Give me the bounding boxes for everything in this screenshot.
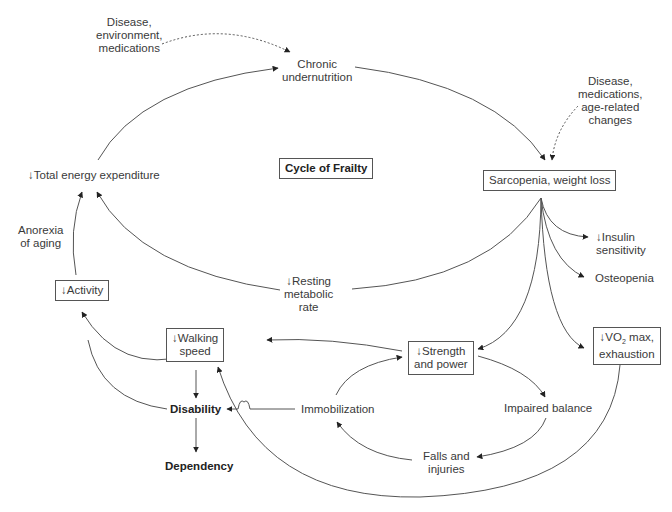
immobilization-node: Immobilization <box>301 403 375 416</box>
influences-top-label: Disease, environment, medications <box>96 16 162 55</box>
disability-node: Disability <box>170 403 221 416</box>
dependency-node: Dependency <box>165 460 233 473</box>
text-line: metabolic <box>284 288 333 301</box>
text-line: medications, <box>578 88 643 101</box>
sarcopenia-node: Sarcopenia, weight loss <box>483 170 616 191</box>
anorexia-label: Anorexia of aging <box>18 224 63 250</box>
vo2-prefix: ↓VO <box>600 331 622 343</box>
text-line: rate <box>284 301 333 314</box>
text-line: speed <box>172 345 218 358</box>
insulin-node: ↓Insulin sensitivity <box>596 231 646 257</box>
text-line: sensitivity <box>596 244 646 257</box>
activity-node: ↓Activity <box>55 280 109 301</box>
text-line: medications <box>96 42 162 55</box>
text-line: changes <box>578 114 643 127</box>
text-line: ↓Resting <box>284 275 333 288</box>
text-line: environment, <box>96 29 162 42</box>
osteopenia-node: Osteopenia <box>595 272 654 285</box>
diagram-title: Cycle of Frailty <box>279 158 373 179</box>
total-energy-node: ↓Total energy expenditure <box>28 169 160 182</box>
vo2-node: ↓VO2 max, exhaustion <box>593 327 661 365</box>
text-line: age-related <box>578 101 643 114</box>
text-line: Falls and <box>423 450 470 463</box>
text-line: Anorexia <box>18 224 63 237</box>
falls-node: Falls and injuries <box>423 450 470 476</box>
text-line: ↓VO2 max, <box>599 331 655 348</box>
text-line: ↓Insulin <box>596 231 646 244</box>
text-line: injuries <box>423 463 470 476</box>
text-line: ↓Walking <box>172 332 218 345</box>
resting-metabolic-node: ↓Resting metabolic rate <box>284 275 333 314</box>
text-line: Chronic <box>282 58 352 71</box>
text-line: exhaustion <box>599 348 655 361</box>
influences-right-label: Disease, medications, age-related change… <box>578 75 643 127</box>
text-line: undernutrition <box>282 71 352 84</box>
walking-speed-node: ↓Walking speed <box>166 328 224 362</box>
text-line: Disease, <box>578 75 643 88</box>
vo2-suffix: max, <box>626 331 654 343</box>
text-line: of aging <box>18 237 63 250</box>
impaired-balance-node: Impaired balance <box>504 402 592 415</box>
chronic-undernutrition-node: Chronic undernutrition <box>282 58 352 84</box>
text-line: ↓Strength <box>414 345 468 358</box>
strength-node: ↓Strength and power <box>408 341 474 375</box>
text-line: and power <box>414 358 468 371</box>
text-line: Disease, <box>96 16 162 29</box>
